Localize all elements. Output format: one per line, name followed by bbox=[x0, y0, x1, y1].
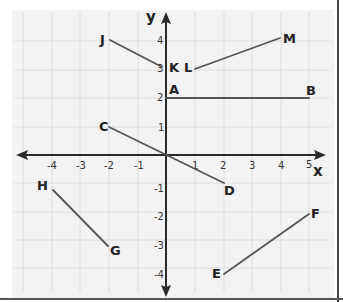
y-axis-label: y bbox=[146, 8, 156, 26]
point-label-f: F bbox=[311, 206, 320, 221]
y-tick: -1 bbox=[154, 183, 164, 194]
x-tick: 3 bbox=[249, 160, 255, 171]
point-label-m: M bbox=[283, 31, 296, 46]
point-label-e: E bbox=[212, 266, 221, 281]
x-tick: 5 bbox=[306, 159, 312, 170]
x-tick: -2 bbox=[104, 160, 114, 171]
x-tick: -1 bbox=[134, 160, 144, 171]
x-axis-label: x bbox=[313, 162, 323, 180]
point-label-d: D bbox=[224, 183, 235, 198]
point-label-c: C bbox=[99, 119, 109, 134]
point-label-h: H bbox=[37, 178, 48, 193]
y-tick: 4 bbox=[157, 35, 163, 46]
point-label-b: B bbox=[306, 83, 316, 98]
point-label-l: L bbox=[184, 60, 192, 75]
y-tick: 1 bbox=[158, 122, 164, 133]
y-tick: -4 bbox=[154, 269, 164, 280]
y-tick: 2 bbox=[157, 92, 163, 103]
x-tick: 4 bbox=[278, 160, 284, 171]
point-label-g: G bbox=[110, 243, 121, 258]
x-tick: -3 bbox=[76, 160, 86, 171]
y-tick: -2 bbox=[154, 211, 164, 222]
point-label-k: K bbox=[169, 60, 180, 75]
x-tick: 2 bbox=[220, 160, 226, 171]
point-label-a: A bbox=[169, 82, 179, 97]
coordinate-plane: x y -4 -3 -2 -1 1 2 3 4 5 4 3 2 1 -1 -2 … bbox=[0, 0, 343, 302]
point-label-j: J bbox=[99, 32, 105, 47]
x-tick: -4 bbox=[47, 160, 57, 171]
y-tick: -3 bbox=[154, 240, 164, 251]
